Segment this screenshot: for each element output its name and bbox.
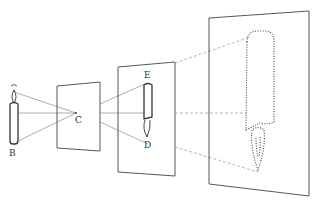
enlarged-candle-flame [252,128,265,171]
enlarged-candle-body [246,31,274,130]
inverted-candle-body [144,84,152,120]
label-c: C [75,115,82,125]
pinhole-projection-diagram: B C E D [0,0,320,205]
rays-to-image-screen [100,83,148,144]
rays-to-pinhole [14,92,76,142]
pinhole-point [75,112,77,114]
inverted-candle-flame [144,120,150,137]
label-b: B [9,148,16,158]
label-d: D [144,140,151,150]
enlarged-inverted-image [246,31,274,170]
candle [10,85,18,145]
enlarged-flame-inner [256,137,260,158]
candle-flame [12,90,16,103]
candle-body [10,103,18,145]
flame-tip-mark [11,85,17,87]
label-e: E [144,70,151,80]
dashed-rays-to-large-screen [175,37,258,172]
inverted-candle-image [144,84,152,138]
